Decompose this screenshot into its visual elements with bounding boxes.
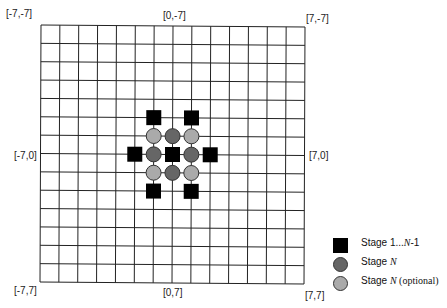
black-square-marker [165,147,180,162]
black-square-marker [146,110,161,125]
light-circle-marker [184,166,199,181]
black-square-marker [203,147,218,162]
legend-label-stage-1-to-n-minus-1: Stage 1...N-1 [361,237,419,248]
light-gray-circle-icon [333,276,348,291]
dark-gray-circle-icon [333,257,348,272]
legend-item-stage-n-optional: Stage N (optional) [330,274,348,292]
dark-circle-marker [165,165,180,180]
dark-circle-marker [165,129,180,144]
coord-label-middle-right: [7,0] [309,150,328,161]
dark-circle-marker [146,147,161,162]
dark-circle-marker [184,147,199,162]
legend-label-stage-n: Stage N [361,256,397,267]
black-square-marker [146,184,161,199]
coord-label-bottom-right: [7,7] [305,290,324,301]
legend-label-stage-n-optional: Stage N (optional) [361,275,439,286]
light-circle-marker [146,165,161,180]
black-square-marker [184,110,199,125]
light-circle-marker [146,129,161,144]
legend-item-stage-1-to-n-minus-1: Stage 1...N-1 [330,236,348,254]
black-square-icon [333,238,348,253]
coord-label-top-center: [0,-7] [163,10,186,21]
black-square-marker [127,147,142,162]
coord-label-bottom-left: [-7,7] [14,285,37,296]
coord-label-top-right: [7,-7] [306,13,329,24]
black-square-marker [184,184,199,199]
coord-label-middle-left: [-7,0] [14,150,37,161]
coord-label-top-left: [-7,-7] [6,8,32,19]
light-circle-marker [184,129,199,144]
coord-label-bottom-center: [0,7] [163,287,182,298]
legend-item-stage-n: Stage N [330,255,348,273]
